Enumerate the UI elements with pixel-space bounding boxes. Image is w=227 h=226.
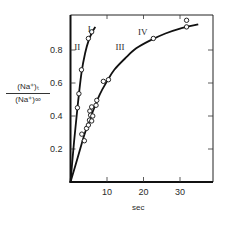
data-point-circle — [151, 36, 155, 40]
data-point-circle — [89, 105, 93, 109]
x-axis-label: sec — [132, 203, 144, 212]
data-point-circle — [86, 123, 90, 127]
plot-frame — [70, 15, 214, 183]
y-tick-label: 0.6 — [50, 78, 63, 88]
data-point-circle — [91, 114, 95, 118]
curve-label-i: I — [88, 24, 91, 34]
y-axis-label-numerator: (Na⁺)ₜ — [6, 82, 50, 94]
y-axis-label: (Na⁺)ₜ (Na⁺)∞ — [6, 82, 50, 105]
curve-label-iii: III — [115, 42, 124, 52]
x-tick-label: 20 — [138, 187, 148, 197]
data-point-circle — [77, 92, 81, 96]
y-tick-label: 0.4 — [50, 111, 63, 121]
data-point-circle — [106, 78, 110, 82]
x-tick-label: 30 — [175, 187, 185, 197]
data-point-circle — [101, 79, 105, 83]
curve-label-iv: IV — [138, 27, 148, 37]
data-point-circle — [89, 119, 93, 123]
data-point-circle — [95, 98, 99, 102]
data-point-circle — [79, 68, 83, 72]
chart: 1020300.20.40.60.8 IIIIIIIV — [0, 0, 227, 226]
data-point-circle — [75, 106, 79, 110]
data-point-circle — [82, 139, 86, 143]
y-tick-label: 0.8 — [50, 45, 63, 55]
data-point-circle — [184, 18, 188, 22]
data-point-circle — [184, 25, 188, 29]
y-tick-label: 0.2 — [50, 144, 63, 154]
y-axis-label-denominator: (Na⁺)∞ — [6, 94, 50, 105]
fit-curves — [71, 24, 199, 182]
data-point-circle — [86, 36, 90, 40]
fit-curve — [71, 24, 199, 182]
data-point-circle — [94, 103, 98, 107]
curve-label-ii: II — [74, 42, 80, 52]
data-point-circle — [80, 132, 84, 136]
x-tick-label: 10 — [102, 187, 112, 197]
data-points — [75, 18, 189, 143]
